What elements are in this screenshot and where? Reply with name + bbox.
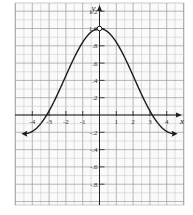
- svg-text:.6: .6: [92, 60, 98, 68]
- svg-text:-4: -4: [29, 118, 35, 126]
- svg-text:2: 2: [131, 118, 135, 126]
- svg-text:.8: .8: [92, 42, 98, 50]
- svg-text:-3: -3: [46, 118, 52, 126]
- svg-text:1: 1: [115, 118, 119, 126]
- y-axis-label: y: [91, 3, 96, 13]
- svg-text:4: 4: [165, 118, 169, 126]
- svg-text:-.8: -.8: [90, 181, 98, 189]
- svg-text:-.6: -.6: [90, 163, 98, 171]
- open-point: [97, 26, 102, 31]
- function-graph: -4-3-2-11234-.8-.6-.4-.2.2.4.6.81.01.2 x…: [0, 0, 193, 215]
- x-axis-label: x: [179, 116, 184, 126]
- svg-text:.4: .4: [92, 77, 98, 85]
- svg-text:-.4: -.4: [90, 146, 98, 154]
- svg-text:3: 3: [148, 118, 152, 126]
- svg-text:-.2: -.2: [90, 129, 98, 137]
- svg-text:.2: .2: [92, 94, 98, 102]
- svg-text:-1: -1: [80, 118, 86, 126]
- svg-text:-2: -2: [63, 118, 69, 126]
